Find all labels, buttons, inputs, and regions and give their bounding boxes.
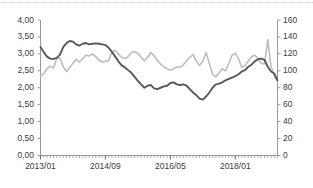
y-axis-right-tick-label: 0 bbox=[283, 151, 311, 160]
x-axis-tick-label: 2014/09 bbox=[78, 162, 132, 171]
y-axis-left-tick-label: 3,00 bbox=[4, 49, 34, 58]
y-axis-left-tick-label: 3,50 bbox=[4, 32, 34, 41]
chart-container: 0,000,501,001,502,002,503,003,504,00 020… bbox=[0, 0, 313, 188]
y-axis-right-tick-label: 160 bbox=[283, 16, 311, 25]
y-axis-right-tick-label: 40 bbox=[283, 117, 311, 126]
y-axis-left-tick-label: 4,00 bbox=[4, 16, 34, 25]
series-line-dark bbox=[41, 41, 278, 100]
y-axis-left-tick-label: 1,00 bbox=[4, 117, 34, 126]
y-axis-right-tick-label: 60 bbox=[283, 100, 311, 109]
y-axis-left-tick-label: 0,00 bbox=[4, 151, 34, 160]
y-axis-left-tick-label: 0,50 bbox=[4, 134, 34, 143]
y-axis-right-tick-label: 140 bbox=[283, 32, 311, 41]
series-line-light bbox=[41, 40, 278, 82]
y-axis-right-tick-label: 100 bbox=[283, 66, 311, 75]
x-axis-tick-label: 2013/01 bbox=[14, 162, 68, 171]
y-axis-left-tick-label: 2,00 bbox=[4, 83, 34, 92]
x-axis-tick-label: 2018/01 bbox=[208, 162, 262, 171]
y-axis-right-tick-label: 120 bbox=[283, 49, 311, 58]
y-axis-right-tick-label: 20 bbox=[283, 134, 311, 143]
x-axis-tick-label: 2016/05 bbox=[143, 162, 197, 171]
y-axis-right-tick-label: 80 bbox=[283, 83, 311, 92]
chart-plot-area bbox=[0, 0, 313, 188]
y-axis-left-tick-label: 1,50 bbox=[4, 100, 34, 109]
y-axis-left-tick-label: 2,50 bbox=[4, 66, 34, 75]
